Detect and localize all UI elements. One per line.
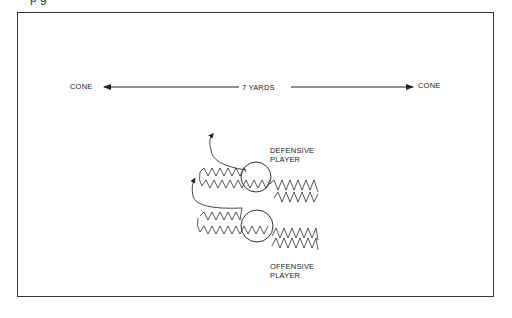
- offensive-label-line2: PLAYER: [270, 271, 314, 280]
- defensive-label-line1: DEFENSIVE: [270, 146, 314, 155]
- drill-diagram: [0, 0, 512, 318]
- defensive-player-blocks: [199, 168, 318, 202]
- right-cone-label: CONE: [418, 81, 440, 90]
- left-cone-label: CONE: [70, 82, 92, 91]
- offensive-label-line1: OFFENSIVE: [270, 262, 314, 271]
- defensive-label-line2: PLAYER: [270, 155, 314, 164]
- offensive-player-circle: [241, 210, 273, 242]
- offensive-player-blocks: [197, 208, 318, 250]
- defensive-player-circle: [241, 162, 271, 192]
- defensive-player-label: DEFENSIVE PLAYER: [270, 146, 314, 164]
- distance-label: 7 YARDS: [242, 83, 275, 92]
- offensive-player-label: OFFENSIVE PLAYER: [270, 262, 314, 280]
